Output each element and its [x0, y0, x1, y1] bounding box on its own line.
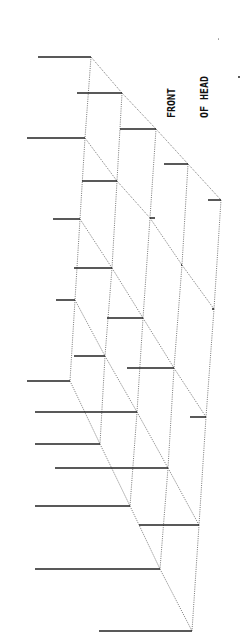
- grid-line-diagonal: [100, 444, 130, 506]
- grid-line-vertical: [214, 200, 221, 309]
- grid-line-vertical: [174, 265, 182, 368]
- stray-mark: [238, 76, 240, 78]
- grid-lines: [70, 57, 221, 631]
- grid-line-vertical: [206, 309, 214, 417]
- grid-line-diagonal: [174, 368, 206, 417]
- grid-line-diagonal: [130, 506, 160, 569]
- label-line-2: OF HEAD: [199, 76, 210, 118]
- grid-line-diagonal: [75, 300, 105, 356]
- grid-line-diagonal: [182, 265, 214, 309]
- grid-line-diagonal: [105, 356, 137, 412]
- value-spikes: [27, 57, 221, 631]
- grid-line-diagonal: [80, 219, 112, 268]
- grid-line-vertical: [70, 300, 75, 381]
- grid-line-diagonal: [117, 181, 150, 218]
- grid-line-vertical: [130, 412, 137, 506]
- grid-line-vertical: [137, 318, 143, 412]
- grid-line-vertical: [75, 219, 80, 300]
- grid-line-vertical: [80, 138, 85, 219]
- grid-line-vertical: [168, 368, 174, 468]
- grid-line-diagonal: [143, 318, 174, 368]
- grid-line-diagonal: [91, 57, 122, 93]
- front-of-head-label: FRONT OF HEAD: [144, 76, 221, 118]
- stray-mark: [218, 38, 219, 40]
- grid-line-diagonal: [85, 138, 117, 181]
- grid-line-diagonal: [137, 412, 168, 468]
- grid-line-vertical: [160, 468, 168, 569]
- grid-line-vertical: [192, 525, 199, 631]
- grid-line-diagonal: [188, 164, 221, 200]
- grid-line-vertical: [85, 57, 91, 138]
- grid-line-vertical: [199, 417, 206, 525]
- grid-line-vertical: [100, 356, 105, 444]
- grid-line-diagonal: [150, 218, 182, 265]
- grid-line-vertical: [150, 129, 156, 218]
- grid-line-diagonal: [156, 129, 188, 164]
- grid-line-vertical: [105, 268, 112, 356]
- grid-line-diagonal: [168, 468, 199, 525]
- grid-line-vertical: [182, 164, 188, 265]
- grid-line-vertical: [112, 181, 117, 268]
- grid-line-diagonal: [160, 569, 192, 631]
- grid-line-vertical: [117, 93, 122, 181]
- label-line-1: FRONT: [166, 76, 177, 118]
- grid-line-diagonal: [112, 268, 143, 318]
- grid-line-vertical: [143, 218, 150, 318]
